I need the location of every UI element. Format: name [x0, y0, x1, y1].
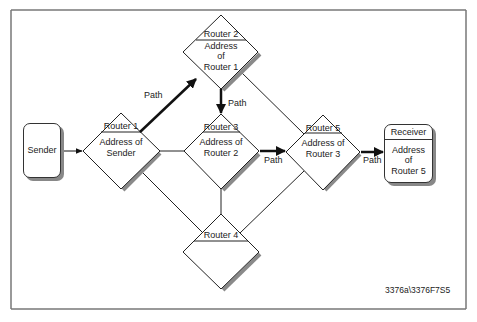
receiver-title: Receiver: [384, 127, 433, 138]
router-5-title: Router 5: [293, 123, 353, 134]
router-2-body-line3: Router 1: [191, 62, 251, 73]
path-label-r2-r3: Path: [228, 98, 247, 109]
path-label-r5-receiver: Path: [363, 155, 382, 166]
path-label-r3-r5: Path: [264, 155, 283, 166]
router-3-body-line1: Address of: [191, 137, 251, 148]
router-4-title: Router 4: [191, 230, 251, 241]
router-1-title: Router 1: [91, 121, 151, 132]
router-2-body-line2: of: [191, 51, 251, 62]
router-5-body-line1: Address of: [293, 138, 353, 149]
receiver-body-line3: Router 5: [384, 166, 433, 177]
router-5-body-line2: Router 3: [293, 149, 353, 160]
router-1-body-line1: Address of: [91, 137, 151, 148]
router-3-title: Router 3: [191, 122, 251, 133]
figure-id: 3376a\3376F7S5: [385, 285, 450, 296]
router-1-body-line2: Sender: [91, 148, 151, 159]
receiver-divider: [385, 139, 432, 140]
path-label-r1-r2: Path: [144, 90, 163, 101]
router-2-title: Router 2: [191, 29, 251, 40]
receiver-body-line2: of: [384, 155, 433, 166]
router-3-body-line2: Router 2: [191, 148, 251, 159]
sender-label: Sender: [23, 145, 61, 156]
